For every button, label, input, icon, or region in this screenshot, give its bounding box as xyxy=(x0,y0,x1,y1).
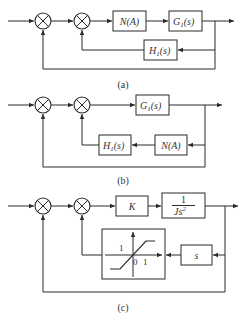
svg-text:1: 1 xyxy=(143,257,148,267)
diagram-c: K 1 Js2 s 1 0 1 (c) xyxy=(8,193,238,314)
svg-text:N(A): N(A) xyxy=(160,140,181,152)
diagram-b: G1(s) N(A) H1(s) (b) xyxy=(8,95,222,187)
caption-c: (c) xyxy=(117,302,128,314)
svg-text:N(A): N(A) xyxy=(119,16,140,28)
plant-block-g1: G1(s) xyxy=(136,95,169,115)
gain-block-k: K xyxy=(116,196,148,216)
derivative-block-s: s xyxy=(181,245,212,265)
summing-junction-1 xyxy=(35,13,51,29)
caption-b: (b) xyxy=(117,175,129,187)
saturation-block: 1 0 1 xyxy=(102,229,165,279)
svg-text:1: 1 xyxy=(181,194,186,205)
feedback-block-h1: H1(s) xyxy=(99,135,131,155)
summing-junction-1 xyxy=(35,198,51,214)
diagram-a: N(A) G1(s) H1(s) (a) xyxy=(8,11,234,91)
summing-junction-1 xyxy=(35,97,51,113)
svg-text:K: K xyxy=(128,201,137,212)
nonlinear-block-n: N(A) xyxy=(113,11,146,31)
nonlinear-block-n: N(A) xyxy=(155,135,187,155)
svg-text:0: 0 xyxy=(133,257,138,267)
feedback-block-h1: H1(s) xyxy=(144,40,177,60)
summing-junction-2 xyxy=(74,97,90,113)
summing-junction-2 xyxy=(74,198,90,214)
svg-text:1: 1 xyxy=(119,243,124,253)
plant-block-1-over-js2: 1 Js2 xyxy=(162,193,205,218)
summing-junction-2 xyxy=(74,13,90,29)
svg-text:s: s xyxy=(195,250,199,261)
caption-a: (a) xyxy=(117,79,128,91)
plant-block-g1: G1(s) xyxy=(169,11,202,31)
